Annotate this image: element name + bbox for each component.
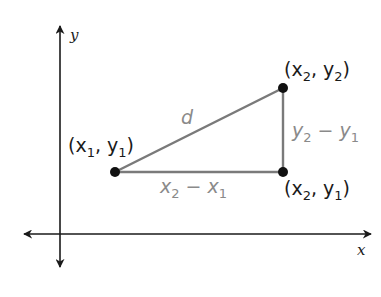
horizontal-leg-label: x2 − x1 (159, 175, 227, 201)
point-label-x1-y1: (x1, y1) (68, 134, 134, 160)
vertical-leg-label: y2 − y1 (291, 119, 359, 145)
hypotenuse-label: d (181, 106, 194, 128)
point-label-x2-y2: (x2, y2) (284, 58, 350, 84)
diagram-canvas: y x d x2 − x1 y2 − y1 (x1, y1) (x2, y2) … (0, 0, 381, 297)
point-x2-y2 (278, 83, 288, 93)
y-axis-label: y (69, 26, 79, 44)
point-label-x2-y1: (x2, y1) (284, 177, 350, 203)
x-axis-label: x (357, 241, 366, 259)
hypotenuse-segment (115, 88, 283, 172)
point-x2-y1 (278, 167, 288, 177)
point-x1-y1 (110, 167, 120, 177)
